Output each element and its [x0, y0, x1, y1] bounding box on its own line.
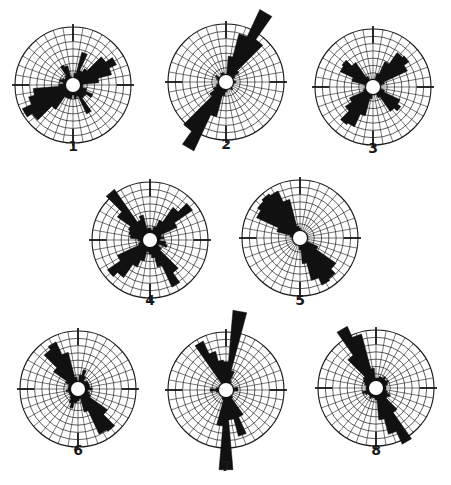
- rose-label-1: 1: [63, 138, 83, 154]
- grid-spoke: [363, 30, 372, 80]
- grid-spoke: [301, 181, 310, 231]
- grid-spoke: [189, 38, 222, 77]
- rose-label-8: 8: [366, 442, 386, 458]
- grid-spoke: [366, 395, 375, 445]
- grid-spoke: [231, 353, 270, 386]
- center-hole: [143, 233, 157, 247]
- grid-spoke: [383, 389, 433, 398]
- grid-spoke: [319, 378, 369, 387]
- rose-diagram-5: [239, 177, 361, 299]
- rose-label-3: 3: [363, 140, 383, 156]
- rose-diagram-3: [312, 26, 434, 148]
- grid-spoke: [356, 395, 373, 443]
- grid-spoke: [23, 391, 71, 408]
- grid-spoke: [307, 218, 355, 235]
- grid-spoke: [233, 380, 283, 389]
- rose-label-4: 4: [140, 292, 160, 308]
- grid-spoke: [290, 245, 299, 295]
- center-hole: [219, 75, 233, 89]
- grid-spoke: [263, 243, 296, 282]
- grid-spoke: [245, 240, 293, 257]
- grid-spoke: [319, 389, 369, 398]
- grid-spoke: [233, 391, 283, 400]
- center-hole: [71, 382, 85, 396]
- center-hole: [369, 381, 383, 395]
- grid-spoke: [171, 370, 219, 387]
- grid-spoke: [182, 394, 221, 427]
- grid-spoke: [85, 369, 133, 386]
- grid-spoke: [302, 183, 319, 231]
- grid-spoke: [169, 83, 219, 92]
- grid-spoke: [34, 393, 73, 426]
- grid-spoke: [63, 92, 72, 142]
- rose-diagram-2: [165, 9, 287, 150]
- rose-diagram-6: [17, 328, 139, 450]
- grid-spoke: [182, 45, 221, 78]
- grid-spoke: [305, 201, 344, 234]
- grid-spoke: [171, 392, 219, 409]
- grid-spoke: [228, 89, 245, 137]
- rose-label-2: 2: [216, 136, 236, 152]
- center-hole: [293, 231, 307, 245]
- grid-spoke: [383, 378, 433, 387]
- grid-spoke: [41, 394, 74, 433]
- rose-diagram-7: [165, 310, 287, 469]
- grid-spoke: [233, 392, 281, 409]
- center-hole: [366, 80, 380, 94]
- grid-spoke: [304, 194, 337, 233]
- grid-spoke: [374, 94, 383, 144]
- grid-spoke: [171, 62, 219, 79]
- rose-label-6: 6: [68, 442, 88, 458]
- grid-spoke: [227, 89, 236, 139]
- grid-spoke: [21, 390, 71, 399]
- grid-spoke: [85, 379, 135, 388]
- grid-spoke: [233, 370, 281, 387]
- grid-spoke: [243, 239, 293, 248]
- grid-spoke: [169, 380, 219, 389]
- grid-spoke: [169, 72, 219, 81]
- grid-spoke: [233, 83, 283, 92]
- grid-spoke: [378, 333, 395, 381]
- center-hole: [219, 383, 233, 397]
- grid-spoke: [29, 48, 68, 81]
- grid-spoke: [18, 65, 66, 82]
- grid-spoke: [332, 392, 371, 425]
- grid-spoke: [189, 395, 222, 434]
- grid-spoke: [280, 245, 297, 293]
- rose-label-7: 7: [216, 458, 236, 474]
- grid-spoke: [377, 331, 386, 381]
- rose-diagram-figure: [0, 0, 451, 485]
- grid-spoke: [216, 25, 225, 75]
- center-hole: [66, 78, 80, 92]
- grid-spoke: [21, 379, 71, 388]
- grid-spoke: [85, 390, 135, 399]
- grid-spoke: [307, 228, 357, 237]
- rose-diagram-4: [89, 179, 211, 301]
- grid-spoke: [321, 390, 369, 407]
- grid-spoke: [230, 87, 263, 126]
- grid-spoke: [381, 351, 420, 384]
- grid-spoke: [380, 344, 413, 383]
- grid-spoke: [256, 242, 295, 275]
- grid-spoke: [36, 41, 69, 80]
- grid-spoke: [339, 393, 372, 432]
- grid-spoke: [206, 27, 223, 75]
- grid-spoke: [75, 92, 92, 140]
- grid-spoke: [383, 368, 431, 385]
- grid-spoke: [233, 72, 283, 81]
- rose-diagram-8: [315, 326, 437, 449]
- rose-diagram-1: [12, 24, 134, 146]
- grid-spoke: [16, 75, 66, 84]
- grid-spoke: [231, 86, 270, 119]
- grid-spoke: [83, 352, 122, 385]
- grid-spoke: [82, 345, 115, 384]
- grid-spoke: [169, 391, 219, 400]
- rose-label-5: 5: [290, 292, 310, 308]
- grid-spoke: [233, 84, 281, 101]
- grid-spoke: [80, 87, 128, 104]
